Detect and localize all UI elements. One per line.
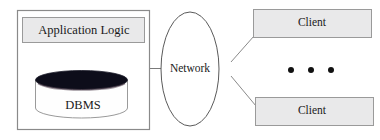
application-logic-box <box>23 18 145 43</box>
ellipsis-dot <box>288 67 294 73</box>
network-ellipse <box>161 12 219 126</box>
client-box-top <box>254 10 372 38</box>
architecture-diagram: Application Logic DBMS Network Client Cl… <box>0 0 380 140</box>
connector-network-to-client-bottom <box>231 76 256 106</box>
ellipsis-dot <box>308 67 314 73</box>
ellipsis-dot <box>328 67 334 73</box>
clients-ellipsis <box>288 63 334 77</box>
connector-network-to-client-top <box>231 36 254 62</box>
client-box-bottom <box>256 98 374 126</box>
